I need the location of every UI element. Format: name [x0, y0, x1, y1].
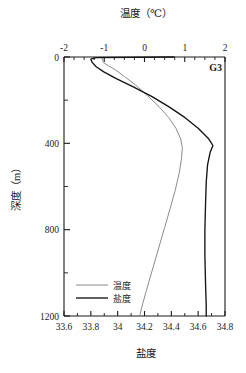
left-tick-label: 1200 [40, 312, 59, 322]
top-tick-label: 0 [142, 43, 147, 53]
top-axis-title: 温度（℃） [120, 7, 172, 19]
series-line-temperature [102, 57, 182, 316]
bottom-tick-label: 34.4 [163, 322, 180, 332]
bottom-tick-label: 34.2 [136, 322, 153, 332]
bottom-axis-title: 盐度 [136, 347, 157, 359]
left-tick-label: 800 [45, 225, 60, 235]
bottom-axis-tick-labels: 33.633.83434.234.434.634.8 [56, 322, 234, 332]
bottom-tick-label: 34.8 [217, 322, 234, 332]
top-axis-tick-labels: -2-1012 [60, 43, 228, 53]
left-axis-tick-labels: 04008001200 [40, 53, 59, 322]
legend-label: 温度 [113, 280, 131, 291]
bottom-tick-label: 33.8 [83, 322, 100, 332]
legend-label: 盐度 [113, 293, 131, 304]
top-tick-label: -2 [60, 43, 68, 53]
chart-svg: 温度（℃） -2-1012 33.633.83434.234.434.634.8… [0, 0, 246, 373]
top-tick-label: 2 [223, 43, 228, 53]
temperature-salinity-profile-chart: 温度（℃） -2-1012 33.633.83434.234.434.634.8… [0, 0, 246, 373]
left-axis-ticks [64, 57, 70, 316]
chart-legend: 温度盐度 [76, 280, 131, 304]
bottom-tick-label: 33.6 [56, 322, 73, 332]
left-tick-label: 0 [54, 53, 59, 63]
bottom-tick-label: 34.6 [190, 322, 207, 332]
top-tick-label: -1 [100, 43, 108, 53]
top-tick-label: 1 [182, 43, 187, 53]
left-axis-title: 深度（m） [10, 163, 22, 211]
bottom-axis-ticks [64, 311, 225, 316]
data-series-group [91, 57, 213, 316]
series-line-salinity [91, 57, 213, 316]
bottom-tick-label: 34 [113, 322, 123, 332]
left-tick-label: 400 [45, 139, 60, 149]
station-label: G3 [209, 62, 222, 73]
